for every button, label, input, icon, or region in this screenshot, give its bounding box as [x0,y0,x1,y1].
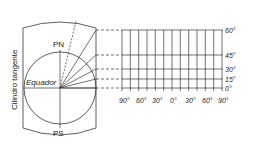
cylindrical-projection-diagram: PN PS Equador Cilindro tangente 60° 45° … [0,0,257,144]
longitude-label: 60° [202,97,213,104]
latitude-projection-lines [96,30,122,88]
latitude-label: 15° [225,76,236,83]
latitude-label: 0° [225,85,232,92]
latitude-label: 60° [225,27,236,34]
latitude-label: 30° [225,66,236,73]
longitude-label: 0° [170,97,177,104]
equator-label: Equador [26,78,57,87]
south-pole-label: PS [53,129,64,138]
longitude-label: 30° [152,97,163,104]
cylinder-label: Cilindro tangente [10,49,19,110]
globe-axes [24,50,96,128]
longitude-label: 60° [136,97,147,104]
north-pole-label: PN [53,40,64,49]
longitude-label: 90° [218,97,229,104]
latitude-label: 45° [225,52,236,59]
longitude-label: 90° [119,97,130,104]
longitude-label: 30° [185,97,196,104]
projection-rays [60,30,96,88]
projection-grid [122,30,223,91]
